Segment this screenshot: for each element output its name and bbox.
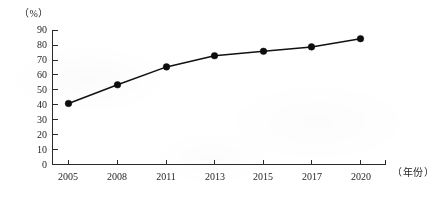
y-tick-label-20: 20 [25, 130, 47, 140]
x-tick-label-2020: 2020 [341, 172, 381, 182]
y-tick-label-80: 80 [25, 40, 47, 50]
data-point-2020 [357, 35, 364, 42]
y-tick-label-70: 70 [25, 55, 47, 65]
line-chart: （%） 0 10 20 30 40 50 60 70 80 90 2005 20… [0, 0, 441, 198]
y-tick-label-60: 60 [25, 70, 47, 80]
x-tick-label-2013: 2013 [195, 172, 235, 182]
y-axis-ticks [53, 30, 58, 164]
y-tick-label-0: 0 [25, 160, 47, 170]
x-tick-label-2011: 2011 [146, 172, 186, 182]
y-tick-label-90: 90 [25, 25, 47, 35]
y-tick-label-30: 30 [25, 115, 47, 125]
x-axis-label: （年份） [392, 168, 434, 178]
y-axis-label: （%） [19, 9, 49, 19]
data-point-2015 [260, 48, 267, 55]
y-tick-label-50: 50 [25, 85, 47, 95]
data-point-2017 [308, 44, 315, 51]
data-point-2008 [114, 82, 121, 89]
x-tick-label-2017: 2017 [292, 172, 332, 182]
x-tick-label-2008: 2008 [97, 172, 137, 182]
data-point-2013 [211, 52, 218, 59]
y-tick-label-40: 40 [25, 100, 47, 110]
data-series-line [69, 39, 361, 104]
y-tick-label-10: 10 [25, 145, 47, 155]
x-axis-ticks [69, 160, 386, 165]
x-tick-label-2005: 2005 [48, 172, 88, 182]
data-point-2011 [163, 64, 170, 71]
chart-plot-area [0, 0, 441, 198]
x-tick-label-2015: 2015 [243, 172, 283, 182]
data-point-2005 [65, 100, 72, 107]
